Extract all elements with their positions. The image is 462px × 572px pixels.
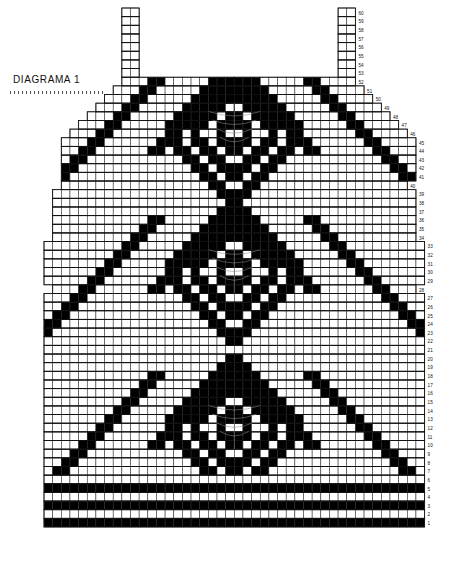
chart-cell bbox=[260, 345, 269, 354]
chart-cell bbox=[260, 224, 269, 233]
chart-cell bbox=[355, 120, 364, 129]
chart-cell bbox=[304, 518, 313, 527]
chart-cell bbox=[191, 423, 200, 432]
chart-cell bbox=[182, 77, 191, 86]
chart-cell bbox=[131, 86, 140, 95]
chart-cell bbox=[96, 484, 105, 493]
chart-cell bbox=[234, 492, 243, 501]
chart-cell bbox=[399, 354, 408, 363]
chart-cell bbox=[53, 363, 62, 372]
chart-cell bbox=[113, 95, 122, 104]
chart-cell bbox=[156, 501, 165, 510]
chart-cell bbox=[87, 337, 96, 346]
chart-cell bbox=[226, 345, 235, 354]
chart-cell bbox=[131, 458, 140, 467]
chart-cell bbox=[278, 181, 287, 190]
chart-cell bbox=[44, 475, 53, 484]
chart-cell bbox=[44, 337, 53, 346]
chart-cell bbox=[381, 181, 390, 190]
chart-cell bbox=[321, 371, 330, 380]
chart-cell bbox=[321, 259, 330, 268]
chart-cell bbox=[295, 406, 304, 415]
chart-cell bbox=[208, 449, 217, 458]
chart-cell bbox=[61, 319, 70, 328]
chart-cell bbox=[347, 363, 356, 372]
chart-cell bbox=[278, 172, 287, 181]
chart-cell bbox=[182, 311, 191, 320]
chart-cell bbox=[243, 164, 252, 173]
chart-cell bbox=[53, 466, 62, 475]
chart-cell bbox=[70, 363, 79, 372]
chart-cell bbox=[260, 441, 269, 450]
chart-cell bbox=[79, 337, 88, 346]
chart-cell bbox=[416, 449, 425, 458]
chart-cell bbox=[165, 129, 174, 138]
chart-cell bbox=[226, 198, 235, 207]
chart-cell bbox=[347, 311, 356, 320]
chart-cell bbox=[312, 198, 321, 207]
chart-cell bbox=[364, 371, 373, 380]
chart-cell bbox=[321, 164, 330, 173]
chart-cell bbox=[252, 155, 261, 164]
chart-cell bbox=[278, 259, 287, 268]
chart-cell bbox=[304, 259, 313, 268]
chart-cell bbox=[295, 475, 304, 484]
chart-cell bbox=[295, 181, 304, 190]
chart-cell bbox=[87, 319, 96, 328]
chart-cell bbox=[234, 354, 243, 363]
chart-cell bbox=[122, 328, 131, 337]
chart-cell bbox=[191, 198, 200, 207]
chart-cell bbox=[269, 198, 278, 207]
chart-cell bbox=[234, 224, 243, 233]
chart-cell bbox=[243, 337, 252, 346]
chart-cell bbox=[252, 146, 261, 155]
chart-cell bbox=[416, 259, 425, 268]
chart-cell bbox=[139, 518, 148, 527]
chart-cell bbox=[295, 441, 304, 450]
chart-cell bbox=[148, 441, 157, 450]
chart-cell bbox=[208, 95, 217, 104]
row-number-label: 15 bbox=[428, 400, 434, 405]
chart-cell bbox=[286, 138, 295, 147]
chart-cell bbox=[364, 242, 373, 251]
chart-cell bbox=[252, 268, 261, 277]
chart-cell bbox=[321, 155, 330, 164]
chart-cell bbox=[329, 458, 338, 467]
chart-cell bbox=[182, 449, 191, 458]
chart-cell bbox=[312, 242, 321, 251]
chart-cell bbox=[156, 466, 165, 475]
row-number-label: 11 bbox=[428, 435, 433, 440]
chart-cell bbox=[347, 371, 356, 380]
chart-cell bbox=[217, 354, 226, 363]
chart-cell bbox=[338, 103, 347, 112]
chart-cell bbox=[347, 172, 356, 181]
chart-cell bbox=[70, 337, 79, 346]
chart-cell bbox=[364, 432, 373, 441]
row-number-label: 49 bbox=[384, 106, 390, 111]
chart-cell bbox=[416, 311, 425, 320]
row-number-label: 44 bbox=[419, 149, 425, 154]
chart-cell bbox=[226, 95, 235, 104]
chart-cell bbox=[156, 242, 165, 251]
chart-cell bbox=[252, 441, 261, 450]
chart-cell bbox=[338, 120, 347, 129]
chart-cell bbox=[156, 518, 165, 527]
chart-cell bbox=[355, 328, 364, 337]
chart-cell bbox=[174, 492, 183, 501]
chart-cell bbox=[113, 518, 122, 527]
chart-cell bbox=[79, 138, 88, 147]
chart-cell bbox=[338, 8, 347, 17]
chart-cell bbox=[278, 164, 287, 173]
chart-cell bbox=[329, 285, 338, 294]
chart-cell bbox=[295, 250, 304, 259]
chart-cell bbox=[329, 311, 338, 320]
row-number-label: 27 bbox=[428, 296, 434, 301]
chart-cell bbox=[70, 423, 79, 432]
chart-cell bbox=[87, 224, 96, 233]
chart-cell bbox=[53, 415, 62, 424]
chart-cell bbox=[226, 103, 235, 112]
chart-cell bbox=[139, 233, 148, 242]
chart-cell bbox=[96, 432, 105, 441]
chart-cell bbox=[304, 181, 313, 190]
chart-cell bbox=[87, 389, 96, 398]
